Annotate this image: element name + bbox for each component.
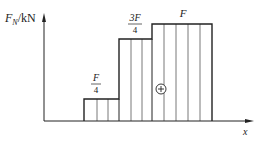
x-axis-arrow-icon: [245, 119, 254, 123]
segment-2-numerator: 3F: [128, 12, 141, 23]
force-step-outline: [84, 24, 212, 121]
diagram-canvas: FN/kN x F 4 3F 4 F: [0, 0, 264, 143]
segment-1-denominator: 4: [94, 85, 99, 95]
positive-sign-icon: [156, 84, 166, 94]
segment-1-numerator: F: [92, 72, 100, 83]
y-axis-arrow-icon: [42, 13, 46, 22]
segment-2-denominator: 4: [133, 25, 138, 35]
y-axis-label: FN/kN: [4, 11, 36, 27]
segment-3-label: F: [179, 7, 187, 19]
axial-force-diagram: FN/kN x F 4 3F 4 F: [0, 0, 264, 143]
x-axis-label: x: [242, 126, 248, 137]
